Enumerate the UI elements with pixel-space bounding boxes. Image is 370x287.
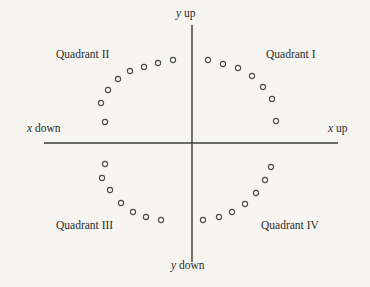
data-point	[242, 201, 247, 206]
data-point	[127, 68, 132, 73]
data-point	[130, 209, 135, 214]
data-point	[229, 209, 234, 214]
data-point	[107, 187, 112, 192]
data-point	[141, 64, 146, 69]
data-point	[115, 76, 120, 81]
data-point	[118, 200, 123, 205]
quadrant-label-ii: Quadrant II	[56, 49, 109, 61]
data-point-group	[98, 57, 278, 222]
data-point	[102, 119, 107, 124]
axis-label-x-up: x up	[328, 123, 347, 135]
data-point	[98, 100, 103, 105]
data-point	[273, 118, 278, 123]
data-point	[253, 190, 258, 195]
axis-label-x-down-word: down	[35, 122, 61, 134]
axis-label-x-down: x down	[27, 123, 61, 135]
data-point	[235, 65, 240, 70]
data-point	[200, 217, 205, 222]
quadrant-label-iv: Quadrant IV	[261, 220, 319, 232]
data-point	[105, 87, 110, 92]
data-point	[143, 214, 148, 219]
axis-label-y-up: y up	[176, 8, 195, 20]
data-point	[170, 57, 175, 62]
data-point	[260, 84, 265, 89]
data-point	[269, 96, 274, 101]
axis-label-y-up-word: up	[184, 7, 196, 19]
data-point	[205, 57, 210, 62]
quadrant-label-iii: Quadrant III	[56, 220, 113, 232]
data-point	[102, 161, 107, 166]
data-point	[268, 164, 273, 169]
axis-label-y-down: y down	[171, 260, 205, 272]
data-point	[262, 177, 267, 182]
data-point	[158, 217, 163, 222]
data-point	[249, 73, 254, 78]
coordinate-plane-svg	[0, 0, 370, 287]
quadrant-label-i: Quadrant I	[266, 49, 316, 61]
axis-label-y-down-word: down	[179, 259, 205, 271]
data-point	[216, 214, 221, 219]
figure-canvas: y up y down x down x up Quadrant II Quad…	[0, 0, 370, 287]
axis-label-x-up-word: up	[336, 122, 348, 134]
data-point	[220, 61, 225, 66]
data-point	[99, 175, 104, 180]
data-point	[155, 60, 160, 65]
